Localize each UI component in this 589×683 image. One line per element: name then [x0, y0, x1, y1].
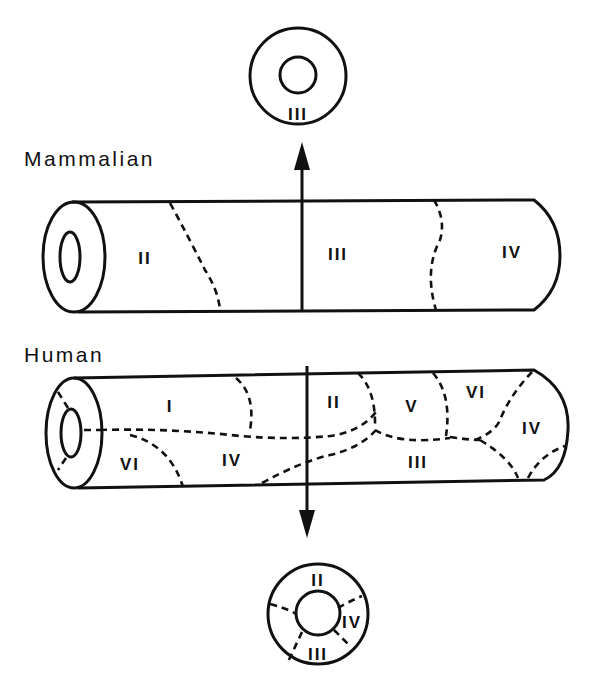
tube-lumen: [61, 409, 81, 457]
bottom-cross-section: II IV III: [268, 564, 368, 664]
region-label: II: [327, 393, 340, 412]
region-label: II: [138, 249, 151, 268]
tube-end-face: [46, 378, 102, 488]
region-label: IV: [222, 451, 242, 470]
mammalian-label: Mammalian: [24, 147, 155, 170]
region-label: IV: [502, 243, 522, 262]
region-label: III: [408, 453, 428, 472]
region-label: IV: [342, 613, 362, 632]
arrow-down-icon: [299, 366, 315, 538]
region-label: II: [311, 571, 324, 590]
region-label: I: [167, 397, 174, 416]
region-label: VI: [120, 455, 140, 474]
inner-lumen: [280, 57, 316, 93]
tube-region-diagram: III Mammalian II III IV Human: [0, 0, 589, 683]
region-label: VI: [466, 383, 486, 402]
top-cross-section: III: [250, 28, 346, 124]
region-label: III: [328, 245, 348, 264]
inner-lumen: [296, 591, 340, 635]
tube-end-face: [43, 202, 105, 312]
human-label: Human: [24, 343, 104, 366]
region-label: III: [288, 105, 308, 124]
region-label: V: [405, 397, 418, 416]
region-label: IV: [522, 419, 542, 438]
tube-lumen: [60, 232, 80, 282]
region-label: III: [308, 645, 328, 664]
arrow-up-icon: [294, 142, 310, 312]
